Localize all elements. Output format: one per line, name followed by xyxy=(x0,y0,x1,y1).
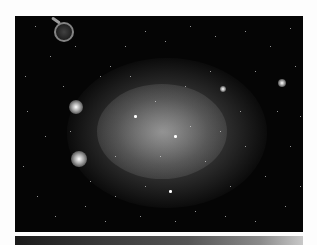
star xyxy=(295,66,297,68)
star xyxy=(210,71,212,73)
star xyxy=(270,46,272,48)
star xyxy=(85,206,87,208)
star xyxy=(185,86,187,88)
star xyxy=(37,196,39,198)
star xyxy=(23,166,25,168)
star xyxy=(140,216,142,218)
star xyxy=(25,76,27,78)
star xyxy=(105,221,107,223)
star xyxy=(115,156,117,158)
ring-object xyxy=(54,22,74,42)
star xyxy=(134,115,137,118)
star xyxy=(277,111,279,113)
bright-star-cluster xyxy=(278,79,286,87)
star xyxy=(63,86,65,88)
star xyxy=(100,76,102,78)
star xyxy=(300,116,302,118)
star xyxy=(220,131,222,133)
bright-star-cluster xyxy=(220,86,226,92)
star xyxy=(27,111,29,113)
star xyxy=(110,66,112,68)
star xyxy=(190,26,192,28)
star xyxy=(125,46,127,48)
bright-star-cluster xyxy=(71,151,87,167)
star xyxy=(130,76,132,78)
star xyxy=(255,71,257,73)
star xyxy=(225,216,227,218)
star xyxy=(190,126,192,128)
star xyxy=(145,31,147,33)
star xyxy=(255,221,257,223)
next-image-edge xyxy=(15,236,303,245)
star xyxy=(90,181,92,183)
star xyxy=(245,31,247,33)
star xyxy=(300,186,302,188)
star xyxy=(230,186,232,188)
star xyxy=(75,46,77,48)
star xyxy=(215,36,217,38)
star xyxy=(45,136,47,138)
star xyxy=(155,101,157,103)
star xyxy=(115,196,117,198)
star xyxy=(290,146,292,148)
star xyxy=(195,211,197,213)
star xyxy=(70,131,72,133)
star xyxy=(35,26,37,28)
star xyxy=(285,206,287,208)
star xyxy=(174,135,177,138)
galaxy-photo xyxy=(15,16,303,232)
star xyxy=(145,186,147,188)
star xyxy=(240,111,242,113)
star xyxy=(205,161,207,163)
star xyxy=(169,190,172,193)
bright-star-cluster xyxy=(69,100,83,114)
star xyxy=(55,216,57,218)
star xyxy=(160,156,162,158)
galaxy-core xyxy=(97,84,227,179)
star xyxy=(265,176,267,178)
star xyxy=(245,146,247,148)
star xyxy=(175,221,177,223)
star xyxy=(290,28,292,30)
star xyxy=(165,41,167,43)
star xyxy=(50,56,52,58)
